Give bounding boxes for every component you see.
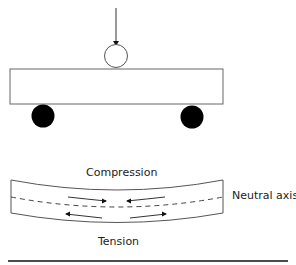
neutral-axis-line [11,197,223,207]
neutral-axis-label: Neutral axis [232,190,296,201]
loading-roller-icon [105,45,128,68]
diagram-canvas [0,0,296,265]
left-support-icon [32,105,55,128]
beam-rectangle [10,69,223,104]
right-support-icon [181,106,204,129]
tension-arrows [65,212,167,219]
bent-beam [11,180,223,223]
load-arrow-icon [113,8,119,46]
compression-arrows [68,197,165,204]
tension-label: Tension [98,236,139,247]
beam-bending-diagram: Compression Neutral axis Tension [0,0,296,265]
compression-label: Compression [86,167,157,178]
